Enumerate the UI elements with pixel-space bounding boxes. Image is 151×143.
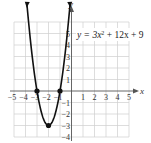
equation-label: y = 3x2 + 12x + 9 (76, 30, 144, 41)
x-intercept-point (57, 88, 62, 93)
svg-text:3: 3 (66, 53, 70, 62)
svg-text:3: 3 (104, 93, 108, 102)
x-axis-arrow-icon (133, 89, 139, 94)
svg-text:5: 5 (127, 93, 131, 102)
svg-text:−3: −3 (61, 122, 70, 131)
svg-text:−4: −4 (61, 133, 70, 142)
x-intercept-point (34, 88, 39, 93)
svg-text:−4: −4 (19, 93, 28, 102)
x-axis-label: x (139, 86, 144, 96)
svg-text:1: 1 (66, 76, 70, 85)
svg-text:2: 2 (66, 64, 70, 73)
svg-text:4: 4 (116, 93, 120, 102)
svg-text:−5: −5 (8, 93, 17, 102)
svg-text:−2: −2 (61, 110, 70, 119)
vertex-point (46, 123, 51, 128)
svg-text:2: 2 (93, 93, 97, 102)
svg-text:−2: −2 (42, 93, 51, 102)
svg-text:1: 1 (81, 93, 85, 102)
parabola-chart: x y −5 −4 −3 −2 −1 1 2 3 4 5 −4 −3 −2 −1… (0, 0, 151, 143)
svg-text:−1: −1 (61, 99, 70, 108)
